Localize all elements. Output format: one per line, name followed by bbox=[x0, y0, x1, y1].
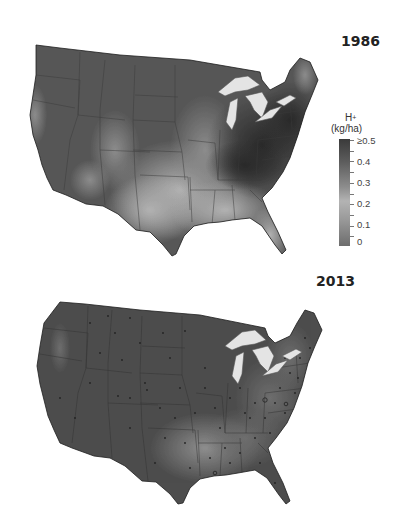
map-1986 bbox=[0, 40, 330, 265]
legend-tick-label: 0.4 bbox=[357, 157, 370, 167]
map-2013-year-label: 2013 bbox=[316, 273, 355, 289]
legend-tick-label: 0.3 bbox=[357, 178, 370, 188]
legend-tick-label: 0 bbox=[357, 237, 362, 247]
legend-tick-label: 0.1 bbox=[357, 220, 370, 230]
legend-tick-label: ≥0.5 bbox=[357, 136, 375, 146]
legend-color-bar bbox=[339, 139, 350, 246]
legend-tick-label: 0.2 bbox=[357, 199, 370, 209]
map-2013 bbox=[0, 288, 330, 513]
legend-unit: (kg/ha) bbox=[331, 123, 362, 135]
map-1986-year-label: 1986 bbox=[341, 33, 380, 49]
